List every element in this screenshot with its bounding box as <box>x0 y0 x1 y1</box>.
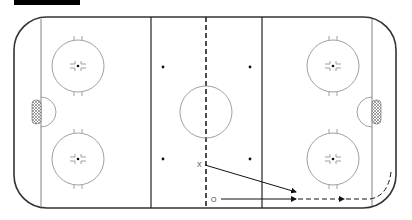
rink-boards <box>14 17 396 208</box>
faceoff-dot <box>162 66 165 69</box>
net-right <box>372 100 381 124</box>
faceoff-dot <box>249 66 252 69</box>
player-x-label: X <box>197 161 202 168</box>
player-o-label: O <box>211 196 217 203</box>
faceoff-dot <box>162 158 165 161</box>
faceoff-dot <box>249 158 252 161</box>
net-left <box>32 100 41 124</box>
hockey-rink: X O <box>0 0 412 220</box>
